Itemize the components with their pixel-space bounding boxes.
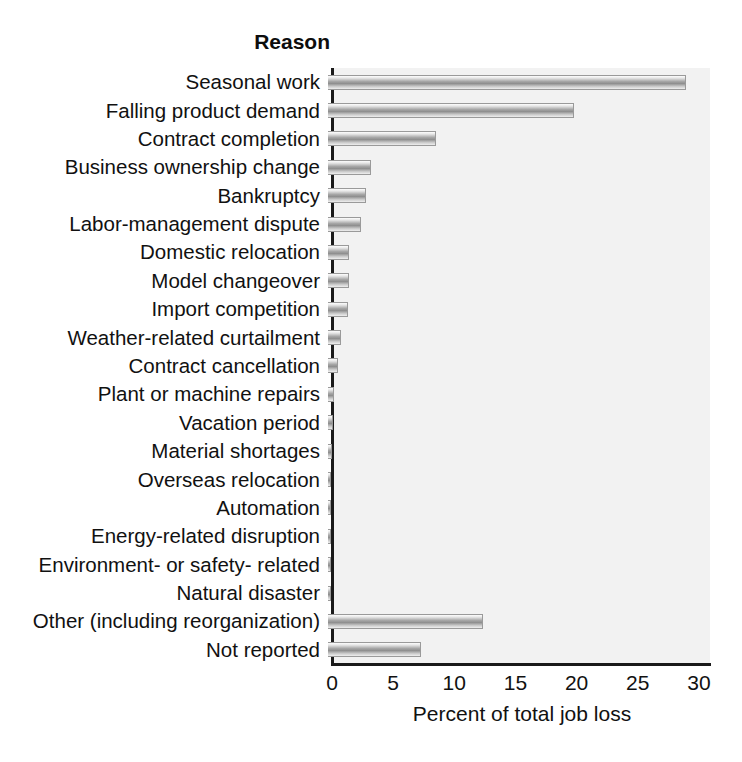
bar-row: Import competition — [0, 295, 742, 323]
category-label: Material shortages — [0, 440, 326, 462]
bar-track — [328, 522, 708, 550]
category-label: Domestic relocation — [0, 241, 326, 263]
category-label: Automation — [0, 497, 326, 519]
bar — [328, 642, 421, 657]
category-label: Overseas relocation — [0, 469, 326, 491]
category-label: Weather-related curtailment — [0, 327, 326, 349]
bar-row: Contract completion — [0, 125, 742, 153]
bar-track — [328, 182, 708, 210]
bar — [328, 75, 686, 90]
bar — [328, 103, 574, 118]
x-axis-ticks: 051015202530 — [0, 670, 742, 700]
bar-row: Weather-related curtailment — [0, 323, 742, 351]
bar-row: Environment- or safety- related — [0, 550, 742, 578]
bar-track — [328, 465, 708, 493]
bar — [328, 557, 331, 572]
bar-track — [328, 210, 708, 238]
bar — [328, 529, 331, 544]
bar-track — [328, 409, 708, 437]
bar — [328, 302, 348, 317]
category-label: Energy-related disruption — [0, 525, 326, 547]
bar-track — [328, 437, 708, 465]
bar — [328, 188, 366, 203]
bar-track — [328, 238, 708, 266]
bar — [328, 387, 334, 402]
x-tick-label: 25 — [626, 670, 649, 696]
category-label: Vacation period — [0, 412, 326, 434]
bar-track — [328, 323, 708, 351]
bar-row: Energy-related disruption — [0, 522, 742, 550]
bar — [328, 330, 341, 345]
bar — [328, 358, 338, 373]
category-label: Business ownership change — [0, 156, 326, 178]
bar-track — [328, 68, 708, 96]
bar-row: Overseas relocation — [0, 465, 742, 493]
bar-track — [328, 96, 708, 124]
x-tick-label: 0 — [326, 670, 338, 696]
bar-row: Business ownership change — [0, 153, 742, 181]
category-label: Natural disaster — [0, 582, 326, 604]
category-label: Contract cancellation — [0, 355, 326, 377]
bar-row: Other (including reorganization) — [0, 607, 742, 635]
category-label: Other (including reorganization) — [0, 610, 326, 632]
bar-row: Automation — [0, 494, 742, 522]
x-tick-label: 20 — [565, 670, 588, 696]
bar — [328, 131, 436, 146]
category-label: Contract completion — [0, 128, 326, 150]
bar-track — [328, 125, 708, 153]
bar-row: Plant or machine repairs — [0, 380, 742, 408]
bar — [328, 160, 371, 175]
category-label: Not reported — [0, 639, 326, 661]
bar-row: Vacation period — [0, 409, 742, 437]
bar-row: Natural disaster — [0, 579, 742, 607]
bar-row: Domestic relocation — [0, 238, 742, 266]
bar-row: Bankruptcy — [0, 182, 742, 210]
category-label: Falling product demand — [0, 100, 326, 122]
bar — [328, 444, 332, 459]
bar — [328, 586, 331, 601]
bar-track — [328, 494, 708, 522]
bar-row: Seasonal work — [0, 68, 742, 96]
bar — [328, 217, 361, 232]
bar-track — [328, 380, 708, 408]
x-tick-label: 5 — [387, 670, 399, 696]
category-label: Bankruptcy — [0, 185, 326, 207]
x-tick-label: 30 — [687, 670, 710, 696]
bar-row: Not reported — [0, 636, 742, 664]
bar-rows: Seasonal workFalling product demandContr… — [0, 68, 742, 664]
category-label: Plant or machine repairs — [0, 383, 326, 405]
category-label: Seasonal work — [0, 71, 326, 93]
bar-row: Labor-management dispute — [0, 210, 742, 238]
category-label: Import competition — [0, 298, 326, 320]
category-label: Model changeover — [0, 270, 326, 292]
x-axis-label: Percent of total job loss — [332, 702, 712, 726]
bar-track — [328, 295, 708, 323]
x-tick-label: 10 — [443, 670, 466, 696]
bar-track — [328, 579, 708, 607]
bar — [328, 415, 333, 430]
x-tick-label: 15 — [504, 670, 527, 696]
bar — [328, 472, 331, 487]
bar — [328, 273, 349, 288]
bar — [328, 614, 483, 629]
bar-chart-figure: Reason Seasonal workFalling product dema… — [0, 0, 742, 762]
chart-title: Reason — [0, 30, 330, 54]
bar — [328, 245, 349, 260]
bar-track — [328, 267, 708, 295]
bar-track — [328, 636, 708, 664]
category-label: Environment- or safety- related — [0, 554, 326, 576]
bar-track — [328, 550, 708, 578]
bar-track — [328, 153, 708, 181]
category-label: Labor-management dispute — [0, 213, 326, 235]
bar-row: Falling product demand — [0, 96, 742, 124]
bar — [328, 500, 331, 515]
bar-track — [328, 607, 708, 635]
bar-row: Material shortages — [0, 437, 742, 465]
bar-row: Model changeover — [0, 267, 742, 295]
bar-track — [328, 352, 708, 380]
bar-row: Contract cancellation — [0, 352, 742, 380]
